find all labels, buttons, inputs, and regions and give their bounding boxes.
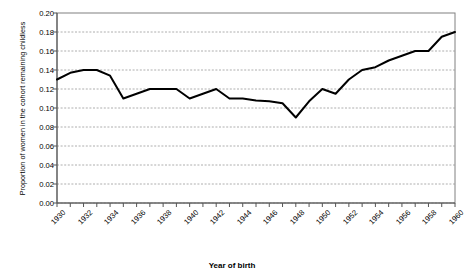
x-axis-tick-label: 1934 xyxy=(93,208,121,236)
x-axis-tick-label: 1938 xyxy=(146,208,174,236)
x-axis-tick-label: 1930 xyxy=(40,208,68,236)
x-axis-tick-label: 1958 xyxy=(411,208,439,236)
x-axis-tick-label: 1954 xyxy=(358,208,386,236)
x-axis-tick-label: 1960 xyxy=(438,208,464,236)
x-axis-tick-label: 1932 xyxy=(66,208,94,236)
childlessness-line-chart: Proportion of women in the cohort remain… xyxy=(0,0,464,273)
x-axis-tick-labels: 1930193219341936193819401942194419461948… xyxy=(0,208,464,254)
x-axis-tick-label: 1936 xyxy=(119,208,147,236)
x-axis-title: Year of birth xyxy=(0,261,464,270)
x-axis-tick-label: 1942 xyxy=(199,208,227,236)
x-axis-tick-label: 1946 xyxy=(252,208,280,236)
x-axis-tick-label: 1956 xyxy=(385,208,413,236)
x-axis-tick-label: 1940 xyxy=(172,208,200,236)
x-axis-tick-label: 1950 xyxy=(305,208,333,236)
x-axis-tick-label: 1944 xyxy=(226,208,254,236)
x-axis-tick-label: 1952 xyxy=(332,208,360,236)
x-axis-tick-label: 1948 xyxy=(279,208,307,236)
